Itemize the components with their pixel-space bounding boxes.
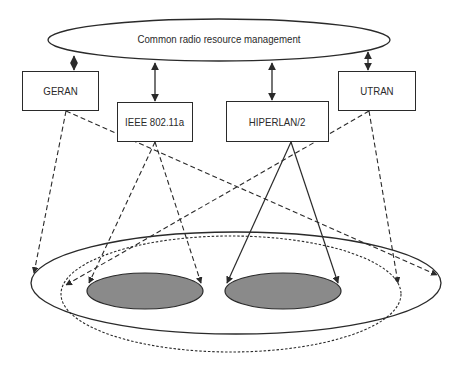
utran-box: UTRAN xyxy=(338,71,416,111)
ieee-80211a-box: IEEE 802.11a xyxy=(117,102,193,142)
radio-resource-diagram xyxy=(0,0,460,370)
common-rrm-label: Common radio resource management xyxy=(87,33,351,45)
hiperlan-hotspot-left-arrow xyxy=(227,142,291,283)
geran-label: GERAN xyxy=(43,85,77,97)
ieee-80211a-label: IEEE 802.11a xyxy=(125,116,184,128)
ieee-hotspot-left-arrow xyxy=(89,142,155,283)
utran-label: UTRAN xyxy=(360,85,393,97)
hotspot-1 xyxy=(87,273,203,309)
geran-coverage-left-arrow xyxy=(34,111,66,273)
utran-coverage-right-arrow xyxy=(369,111,398,283)
hiperlan2-box: HIPERLAN/2 xyxy=(226,101,329,142)
ieee-hotspot-right-arrow xyxy=(155,142,201,283)
hiperlan2-label: HIPERLAN/2 xyxy=(249,116,305,128)
hiperlan-hotspot-right-arrow xyxy=(291,142,338,283)
geran-box: GERAN xyxy=(22,71,99,111)
hotspot-2 xyxy=(225,273,341,309)
